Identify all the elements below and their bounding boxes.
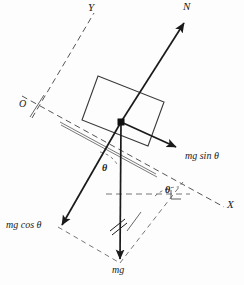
mg-weight-label: mg bbox=[112, 265, 124, 275]
origin-tick bbox=[30, 95, 44, 117]
mg-cos-theta-arrow bbox=[62, 122, 121, 225]
theta-axis-label: θ bbox=[165, 185, 170, 195]
mg-weight-arrow bbox=[120, 122, 121, 259]
parallelogram-left-line bbox=[58, 227, 120, 263]
y-axis-label: Y bbox=[88, 2, 94, 13]
parallel-hash-marks bbox=[110, 212, 141, 235]
physics-free-body-diagram: Y X O N mg sin θ mg cos θ mg θ θ bbox=[0, 0, 244, 285]
mg-sin-theta-label: mg sin θ bbox=[185, 151, 219, 161]
force-application-point bbox=[118, 119, 125, 126]
normal-force-arrow bbox=[121, 23, 184, 122]
axis-group bbox=[22, 13, 224, 207]
diagram-canvas bbox=[0, 0, 244, 285]
origin-label: O bbox=[19, 99, 26, 109]
force-vectors bbox=[62, 23, 184, 259]
y-axis-line bbox=[32, 13, 94, 118]
theta-incline-label: θ bbox=[102, 163, 107, 173]
mg-cos-theta-label: mg cos θ bbox=[6, 220, 41, 230]
normal-force-label: N bbox=[183, 1, 190, 12]
x-axis-label: X bbox=[227, 199, 234, 210]
